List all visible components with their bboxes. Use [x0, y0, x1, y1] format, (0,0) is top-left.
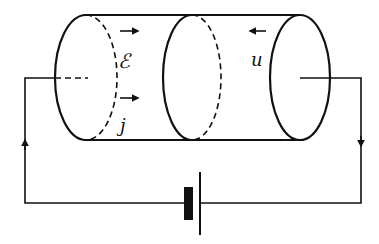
current-density-label: j: [116, 115, 126, 136]
middle-ellipse-solid-half: [163, 15, 192, 140]
left-ellipse-dashed-half: [86, 15, 117, 140]
battery: [184, 172, 200, 235]
field-label: ℰ: [118, 49, 132, 73]
cross-section-middle: [163, 15, 221, 140]
middle-ellipse-dashed-half: [192, 15, 221, 140]
circuit-diagram: ℰ j u: [0, 0, 379, 244]
drift-velocity-label: u: [251, 49, 263, 70]
battery-negative-plate: [184, 187, 193, 220]
